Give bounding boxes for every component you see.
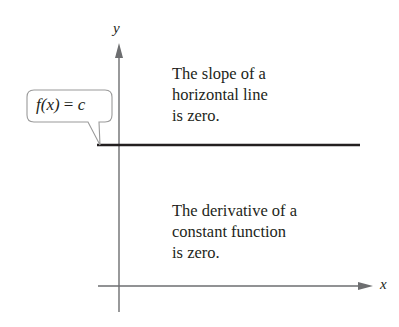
slope-note: The slope of a horizontal line is zero. [172,63,268,126]
y-axis-arrow-icon [115,43,123,58]
derivative-note-line-3: is zero. [172,242,297,263]
coordinate-axes [0,0,399,327]
slope-note-line-2: horizontal line [172,84,268,105]
x-axis-arrow-icon [358,282,373,290]
derivative-note-line-1: The derivative of a [172,200,297,221]
derivative-note: The derivative of a constant function is… [172,200,297,263]
callout-equals: = [64,95,78,114]
callout-function: f(x) [36,95,60,114]
callout-value: c [78,95,86,114]
slope-note-line-3: is zero. [172,105,268,126]
slope-note-line-1: The slope of a [172,63,268,84]
y-axis-label: y [113,20,120,37]
callout-label: f(x) = c [36,95,85,115]
derivative-note-line-2: constant function [172,221,297,242]
x-axis-label: x [380,276,387,293]
